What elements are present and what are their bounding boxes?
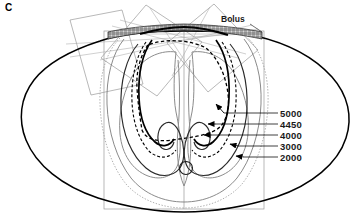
dose-legend-item-3000: 3000 (280, 141, 340, 152)
isodose-figure: C Bolus 5000 4450 4000 3000 2000 (0, 0, 359, 223)
dose-legend: 5000 4450 4000 3000 2000 (280, 108, 340, 163)
dose-legend-item-4450: 4450 (280, 119, 340, 130)
panel-label: C (5, 3, 12, 13)
dose-legend-item-4000: 4000 (280, 130, 340, 141)
dose-legend-item-5000: 5000 (280, 108, 340, 119)
bolus-label: Bolus (221, 15, 245, 24)
dose-legend-item-2000: 2000 (280, 152, 340, 163)
